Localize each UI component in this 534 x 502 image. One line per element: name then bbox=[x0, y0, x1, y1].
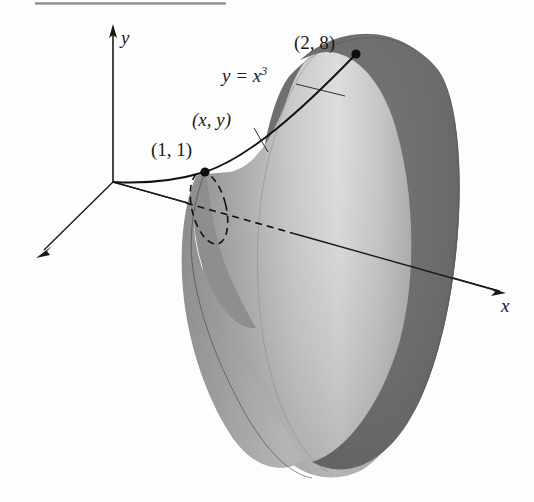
label-point-xy: (x, y) bbox=[192, 110, 231, 129]
z-axis-line bbox=[44, 182, 113, 250]
label-axis-x: x bbox=[501, 296, 509, 315]
x-axis-segment-origin bbox=[113, 182, 188, 203]
dot-point-1-1 bbox=[200, 167, 209, 176]
solid-of-revolution bbox=[182, 34, 460, 478]
curve-equation-exponent: 3 bbox=[261, 64, 267, 78]
label-curve-equation: y = x3 bbox=[222, 65, 267, 85]
z-axis-arrowhead bbox=[36, 246, 52, 258]
label-axis-y: y bbox=[121, 28, 129, 47]
figure-canvas: (2, 8) (1, 1) (x, y) y = x3 y x bbox=[0, 0, 534, 502]
label-point-1-1: (1, 1) bbox=[151, 140, 192, 159]
curve-equation-base: y = x bbox=[222, 65, 261, 86]
dot-point-2-8 bbox=[351, 49, 360, 58]
label-point-2-8: (2, 8) bbox=[294, 33, 335, 52]
